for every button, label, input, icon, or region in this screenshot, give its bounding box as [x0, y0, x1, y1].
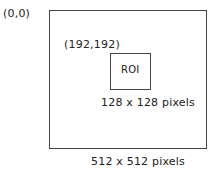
image-size-label: 512 x 512 pixels: [91, 155, 185, 168]
roi-size-label: 128 x 128 pixels: [101, 96, 195, 109]
roi-label: ROI: [121, 64, 139, 75]
roi-coordinate-label: (192,192): [64, 38, 120, 51]
origin-label: (0,0): [3, 7, 30, 20]
